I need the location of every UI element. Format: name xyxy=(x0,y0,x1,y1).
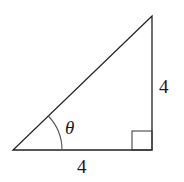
right-triangle-diagram: θ 4 4 xyxy=(0,0,184,182)
bottom-side-label: 4 xyxy=(77,156,87,177)
right-side-label: 4 xyxy=(159,76,169,97)
angle-label-theta: θ xyxy=(65,117,74,138)
triangle xyxy=(13,16,152,150)
right-angle-marker xyxy=(132,131,152,150)
angle-arc xyxy=(48,116,62,150)
